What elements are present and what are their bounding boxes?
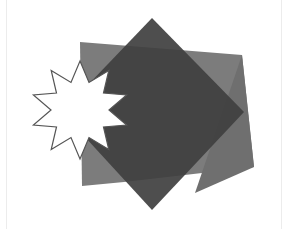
shapes-diagram (0, 0, 288, 229)
